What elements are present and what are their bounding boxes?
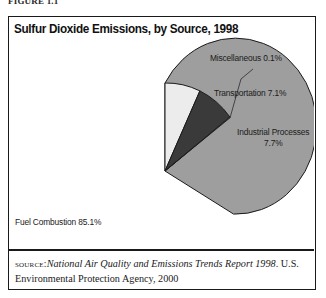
- pie-chart-plot-area: Miscellaneous 0.1% Transportation 7.1% I…: [9, 17, 314, 249]
- figure-frame: Sulfur Dioxide Emissions, by Source, 199…: [8, 16, 316, 290]
- slice-label-transportation: Transportation 7.1%: [214, 88, 286, 99]
- source-divider-rule: [9, 249, 314, 251]
- source-citation: source:National Air Quality and Emission…: [15, 257, 309, 287]
- slice-label-industrial-line1: Industrial Processes: [237, 127, 309, 138]
- slice-label-fuel-combustion: Fuel Combustion 85.1%: [15, 217, 101, 228]
- slice-label-miscellaneous: Miscellaneous 0.1%: [210, 53, 282, 64]
- figure-page: FIGURE 1.1 Sulfur Dioxide Emissions, by …: [0, 0, 326, 298]
- source-kicker: source:: [15, 258, 47, 269]
- slice-label-industrial-line2: 7.7%: [237, 138, 309, 149]
- clipped-figure-caption: FIGURE 1.1: [8, 0, 128, 6]
- source-publication-title: National Air Quality and Emissions Trend…: [47, 258, 276, 269]
- slice-label-industrial-processes: Industrial Processes 7.7%: [237, 127, 309, 148]
